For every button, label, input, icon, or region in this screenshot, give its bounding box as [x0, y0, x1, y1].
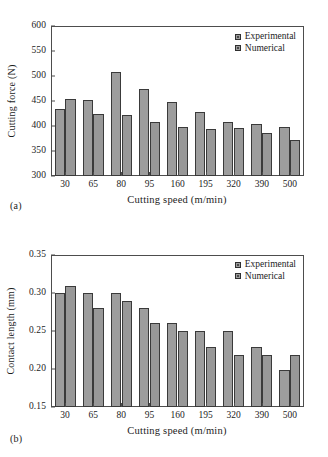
subfigure-label-b: (b) [10, 433, 22, 444]
y-axis-tick-mark [51, 293, 55, 294]
y-axis-tick-mark [51, 255, 55, 256]
legend-swatch-icon [235, 34, 241, 40]
y-axis-tick-label: 350 [31, 146, 51, 156]
x-axis-tick-label: 195 [198, 180, 212, 190]
legend-a: Experimental Numerical [235, 31, 296, 54]
bar-experimental-30 [55, 293, 65, 407]
x-axis-tick-mark [262, 403, 263, 407]
bar-experimental-30 [55, 109, 65, 177]
plot-area-b: Contact length (mm) 0.150.200.250.300.35… [51, 255, 304, 407]
x-axis-tick-mark [121, 172, 122, 176]
bar-numerical-195 [206, 129, 216, 177]
legend-item-numerical-a: Numerical [235, 43, 296, 55]
legend-label: Numerical [245, 271, 285, 283]
x-axis-tick-mark [178, 172, 179, 176]
x-axis-tick-label: 95 [145, 180, 155, 190]
chart-panel-b: Contact length (mm) 0.150.200.250.300.35… [0, 229, 328, 457]
x-axis-tick-mark [234, 172, 235, 176]
x-axis-tick-label: 320 [227, 180, 241, 190]
legend-item-numerical-b: Numerical [235, 271, 296, 283]
x-axis-tick-mark [149, 172, 150, 176]
x-axis-tick-label: 30 [60, 180, 70, 190]
y-axis-tick-mark [51, 407, 55, 408]
bar-experimental-80 [111, 72, 121, 177]
legend-item-experimental-a: Experimental [235, 31, 296, 43]
y-axis-tick-mark [51, 331, 55, 332]
legend-swatch-icon [235, 45, 241, 51]
bar-numerical-195 [206, 347, 216, 407]
x-axis-tick-label: 500 [283, 180, 297, 190]
bar-numerical-65 [93, 308, 103, 407]
chart-panel-a: Cutting force (N) 300350400450500550600 … [0, 0, 328, 228]
plot-area-a: Cutting force (N) 300350400450500550600 … [51, 26, 304, 176]
x-axis-tick-mark [290, 403, 291, 407]
x-axis-tick-mark [206, 403, 207, 407]
bar-numerical-80 [122, 301, 132, 407]
bar-experimental-320 [223, 331, 233, 407]
x-axis-tick-label: 390 [255, 411, 269, 421]
bar-experimental-95 [139, 308, 149, 407]
y-axis-title-a: Cutting force (N) [6, 65, 17, 138]
bar-experimental-195 [195, 331, 205, 407]
legend-label: Experimental [245, 259, 296, 271]
bar-experimental-80 [111, 293, 121, 407]
y-axis-tick-mark [51, 151, 55, 152]
bar-numerical-160 [178, 331, 188, 407]
x-axis-tick-mark [65, 172, 66, 176]
legend-b: Experimental Numerical [235, 259, 296, 282]
bar-numerical-320 [234, 355, 244, 407]
x-axis-tick-mark [206, 172, 207, 176]
bar-numerical-95 [150, 323, 160, 407]
x-axis-tick-label: 500 [283, 411, 297, 421]
y-axis-tick-label: 0.15 [29, 402, 51, 412]
legend-label: Numerical [245, 43, 285, 55]
legend-swatch-icon [235, 262, 241, 268]
bar-experimental-195 [195, 112, 205, 177]
y-axis-tick-label: 0.35 [29, 250, 51, 260]
bar-experimental-500 [279, 370, 289, 407]
x-axis-title-b: Cutting speed (m/min) [127, 425, 226, 436]
bar-numerical-95 [150, 122, 160, 176]
bar-numerical-160 [178, 127, 188, 176]
y-axis-tick-mark [51, 26, 55, 27]
x-axis-tick-mark [149, 403, 150, 407]
bar-experimental-160 [167, 102, 177, 177]
y-axis-tick-label: 550 [31, 46, 51, 56]
bar-numerical-30 [65, 286, 75, 407]
x-axis-tick-mark [93, 403, 94, 407]
subfigure-label-a: (a) [10, 200, 22, 211]
y-axis-tick-label: 600 [31, 21, 51, 31]
x-axis-tick-label: 65 [88, 180, 98, 190]
y-axis-tick-label: 0.20 [29, 364, 51, 374]
x-axis-tick-label: 320 [227, 411, 241, 421]
y-axis-tick-mark [51, 369, 55, 370]
y-axis-tick-mark [51, 176, 55, 177]
bar-numerical-80 [122, 115, 132, 176]
y-axis-tick-label: 0.30 [29, 288, 51, 298]
x-axis-tick-label: 390 [255, 180, 269, 190]
x-axis-tick-label: 65 [88, 411, 98, 421]
x-axis-tick-label: 195 [198, 411, 212, 421]
y-axis-tick-label: 450 [31, 96, 51, 106]
bar-numerical-500 [290, 355, 300, 407]
bar-numerical-390 [262, 133, 272, 176]
legend-label: Experimental [245, 31, 296, 43]
x-axis-tick-label: 160 [170, 411, 184, 421]
x-axis-tick-label: 80 [117, 180, 127, 190]
bar-numerical-320 [234, 128, 244, 176]
bar-experimental-390 [251, 124, 261, 176]
y-axis-tick-label: 300 [31, 171, 51, 181]
y-axis-title-b: Contact length (mm) [5, 287, 16, 374]
y-axis-tick-label: 500 [31, 71, 51, 81]
bar-experimental-390 [251, 347, 261, 407]
bar-experimental-320 [223, 122, 233, 177]
bar-numerical-65 [93, 114, 103, 176]
x-axis-tick-mark [290, 172, 291, 176]
bar-experimental-160 [167, 323, 177, 407]
bar-experimental-95 [139, 89, 149, 176]
x-axis-tick-mark [262, 172, 263, 176]
y-axis-tick-label: 400 [31, 121, 51, 131]
x-axis-tick-mark [234, 403, 235, 407]
bar-numerical-390 [262, 355, 272, 407]
bar-numerical-30 [65, 99, 75, 177]
